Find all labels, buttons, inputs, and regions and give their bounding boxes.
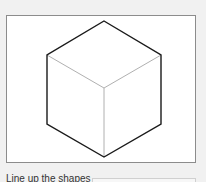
cube-icon — [0, 0, 206, 182]
puzzle-canvas[interactable] — [6, 15, 196, 163]
instruction-text: Line up the shapes — [6, 173, 91, 182]
answer-input[interactable] — [92, 178, 196, 182]
